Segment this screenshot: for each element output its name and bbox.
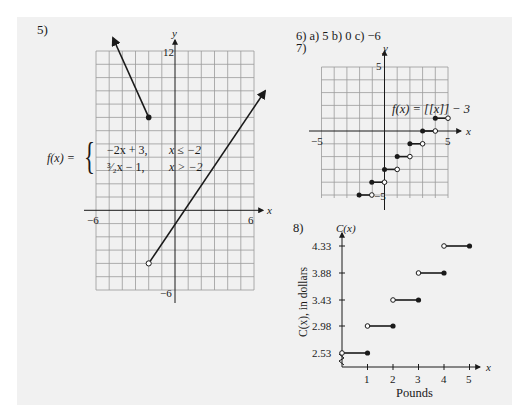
chart-8-y-tick-298: 2.98 (312, 320, 331, 332)
chart-8-x-label: x (486, 361, 491, 373)
problem-7-number: 7) (296, 42, 306, 54)
problem-8-number: 8) (293, 222, 303, 234)
chart-8-y-tick-433: 4.33 (312, 240, 331, 252)
chart-8-y-title: C(x) (336, 222, 356, 234)
formula-row2-cond: x > −2 (169, 160, 203, 175)
graph-7-formula: f(x) = [[x]] − 3 (392, 103, 470, 115)
closed-dot (146, 115, 152, 121)
graph-7-x-max-label: 5 (445, 135, 451, 147)
chart-8-open-dots (340, 244, 447, 356)
formula-row2-expr: ³⁄₂x − 1, (107, 160, 145, 175)
graph-7-y-label: y (383, 42, 388, 54)
formula-row1-cond: x ≤ −2 (169, 143, 201, 158)
graph-5-right-ray (149, 91, 265, 263)
graph-5-y-max-label: 12 (163, 46, 174, 58)
chart-8-y-tick-343: 3.43 (312, 294, 331, 306)
chart-8-y-tick-253: 2.53 (312, 347, 331, 359)
graph-5-y-min-label: −6 (160, 287, 172, 299)
graph-5-x-max-label: 6 (248, 214, 254, 226)
graph-7-y-max-label: 5 (376, 60, 382, 72)
chart-8-closed-dots (365, 243, 472, 355)
graph-5 (0, 0, 522, 418)
chart-8-steps (342, 246, 470, 353)
graph-5-x-min-label: −6 (87, 214, 99, 226)
formula-lhs: f(x) = (47, 151, 75, 166)
graph-7-y-min-label: −5 (374, 190, 386, 202)
graph-7-x-label: x (466, 125, 471, 137)
problem-6-answers: 6) a) 5 b) 0 c) −6 (296, 30, 381, 42)
brace-icon: { (84, 137, 95, 175)
formula-row1-expr: −2x + 3, (107, 143, 148, 158)
graph-7-x-min-label: −5 (311, 135, 323, 147)
chart-8-ticks (339, 246, 470, 370)
chart-8-y-tick-388: 3.88 (312, 267, 331, 279)
chart-8-x-tick-5: 5 (466, 373, 472, 385)
graph-5-y-label: y (172, 27, 177, 39)
chart-8-y-axis-label: C(x), in dollars (297, 247, 309, 357)
chart-8-x-tick-2: 2 (390, 373, 396, 385)
chart-8-x-axis-title: Pounds (396, 387, 433, 399)
chart-8-x-tick-3: 3 (415, 373, 421, 385)
graph-5-x-label: x (267, 204, 272, 216)
chart-8-x-tick-4: 4 (441, 373, 447, 385)
chart-8-x-tick-1: 1 (364, 373, 370, 385)
open-dot (146, 261, 151, 266)
